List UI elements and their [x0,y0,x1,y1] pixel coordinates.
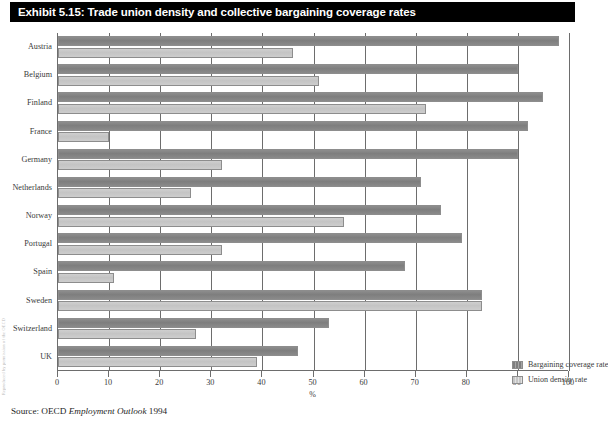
bar-austria-coverage [58,36,559,46]
y-label-finland: Finland [0,98,52,107]
bar-row [58,61,568,89]
bar-belgium-coverage [58,64,518,74]
legend-item-coverage: Bargaining coverage rate [512,360,608,369]
legend-swatch-coverage-icon [512,361,523,369]
bar-france-density [58,132,109,142]
x-tick-60 [364,371,365,377]
bar-row [58,202,568,230]
x-tick-50 [313,371,314,377]
bar-row [58,315,568,343]
bar-netherlands-density [58,188,191,198]
bar-row [58,287,568,315]
bar-switzerland-density [58,329,196,339]
x-axis-title: % [57,390,568,399]
bar-norway-density [58,217,344,227]
y-label-norway: Norway [0,211,52,220]
y-label-switzerland: Switzerland [0,324,52,333]
bar-netherlands-coverage [58,177,421,187]
legend-item-density: Union density rate [512,375,608,384]
bar-row [58,174,568,202]
bar-uk-density [58,357,257,367]
bar-germany-coverage [58,149,518,159]
y-label-france: France [0,127,52,136]
x-tick-70 [415,371,416,377]
y-label-belgium: Belgium [0,70,52,79]
y-label-sweden: Sweden [0,296,52,305]
x-tick-80 [466,371,467,377]
source-publication: Employment Outlook [69,406,147,416]
x-tick-label-0: 0 [42,378,72,387]
chart-container: AustriaBelgiumFinlandFranceGermanyNether… [57,33,568,371]
bar-spain-coverage [58,261,405,271]
y-label-austria: Austria [0,42,52,51]
x-tick-label-80: 80 [451,378,481,387]
x-tick-30 [210,371,211,377]
x-tick-40 [261,371,262,377]
bar-row [58,146,568,174]
bar-spain-density [58,273,114,283]
exhibit-title-bar: Exhibit 5.15: Trade union density and co… [10,2,575,22]
y-label-germany: Germany [0,155,52,164]
bar-row [58,89,568,117]
bar-sweden-coverage [58,290,482,300]
source-suffix: 1994 [147,406,168,416]
bar-row [58,343,568,371]
bar-switzerland-coverage [58,318,329,328]
bar-france-coverage [58,121,528,131]
bar-austria-density [58,48,293,58]
plot-area [57,33,568,371]
bar-row [58,33,568,61]
x-tick-label-70: 70 [400,378,430,387]
x-tick-label-10: 10 [93,378,123,387]
x-tick-20 [159,371,160,377]
x-tick-0 [57,371,58,377]
bar-finland-coverage [58,92,543,102]
source-prefix: Source: OECD [11,406,69,416]
legend-label-coverage: Bargaining coverage rate [528,360,608,369]
bar-finland-density [58,104,426,114]
x-tick-label-50: 50 [298,378,328,387]
bar-germany-density [58,160,222,170]
source-caption: Source: OECD Employment Outlook 1994 [11,406,167,416]
gridline-100 [569,33,570,371]
legend-label-density: Union density rate [528,375,587,384]
bar-row [58,230,568,258]
bar-norway-coverage [58,205,441,215]
x-tick-label-40: 40 [246,378,276,387]
page-title: Exhibit 5.15: Trade union density and co… [10,6,416,18]
chart-legend: Bargaining coverage rate Union density r… [512,360,608,390]
bar-portugal-coverage [58,233,462,243]
bar-row [58,118,568,146]
y-label-portugal: Portugal [0,239,52,248]
y-label-netherlands: Netherlands [0,183,52,192]
legend-swatch-density-icon [512,376,523,384]
bar-sweden-density [58,301,482,311]
y-label-spain: Spain [0,267,52,276]
bar-uk-coverage [58,346,298,356]
x-tick-10 [108,371,109,377]
x-tick-label-60: 60 [349,378,379,387]
y-label-uk: UK [0,352,52,361]
bar-belgium-density [58,76,319,86]
bar-row [58,258,568,286]
x-tick-label-20: 20 [144,378,174,387]
x-tick-label-30: 30 [195,378,225,387]
bar-portugal-density [58,245,222,255]
